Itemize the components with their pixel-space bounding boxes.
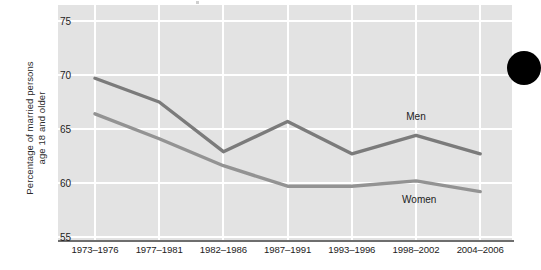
y-axis-title-line-2: age 18 and older bbox=[36, 61, 48, 194]
y-axis-title: Percentage of married persons age 18 and… bbox=[16, 28, 56, 228]
x-tick-label-0: 1973–1976 bbox=[71, 244, 118, 255]
x-tick-label-3: 1987–1991 bbox=[264, 244, 311, 255]
page-artifact-speck bbox=[196, 1, 199, 4]
plot-area bbox=[58, 5, 512, 240]
series-label-men: Men bbox=[406, 111, 425, 122]
x-axis-line bbox=[58, 240, 514, 242]
y-tick-label-60: 60 bbox=[60, 178, 82, 189]
x-tick-label-1: 1977–1981 bbox=[136, 244, 183, 255]
y-tick-label-70: 70 bbox=[60, 70, 82, 81]
x-tick-label-4: 1993–1996 bbox=[328, 244, 375, 255]
y-tick-label-65: 65 bbox=[60, 124, 82, 135]
y-tick-label-55: 55 bbox=[60, 232, 82, 243]
line-series-women bbox=[95, 114, 480, 192]
series-label-women: Women bbox=[402, 194, 436, 205]
series-lines bbox=[58, 5, 512, 240]
page-corner-dot bbox=[507, 51, 541, 85]
x-tick-label-6: 2004–2006 bbox=[457, 244, 504, 255]
x-tick-label-2: 1982–1986 bbox=[200, 244, 247, 255]
y-axis-title-line-1: Percentage of married persons bbox=[24, 61, 36, 194]
y-tick-label-75: 75 bbox=[60, 16, 82, 27]
x-tick-label-5: 1998–2002 bbox=[392, 244, 439, 255]
